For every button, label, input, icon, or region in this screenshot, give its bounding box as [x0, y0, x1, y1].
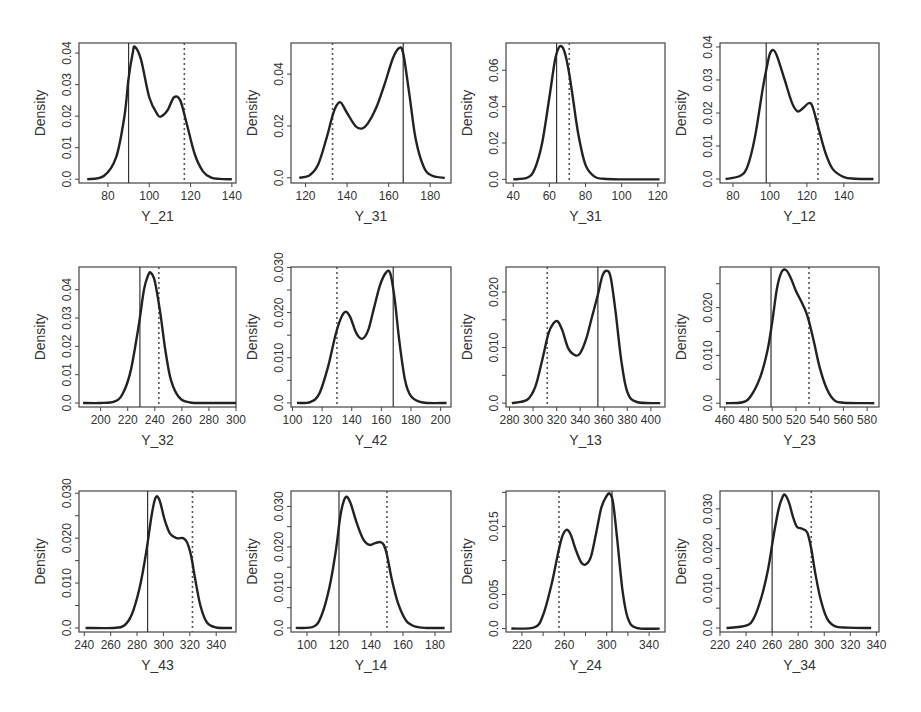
x-tick-label: 100: [297, 638, 317, 652]
x-tick-label: 300: [814, 638, 834, 652]
density-panel-y21-0: 801001201400.00.010.020.030.04Y_21Densit…: [32, 41, 242, 224]
x-tick-label: 260: [172, 413, 192, 427]
x-tick-label: 100: [282, 413, 302, 427]
density-panel-y24-10: 2202603003400.00.0050.015Y_24Density: [459, 491, 665, 673]
y-tick-label: 0.020: [701, 292, 715, 322]
x-tick-label: 120: [329, 638, 349, 652]
x-tick-label: 300: [153, 638, 173, 652]
x-tick-label: 280: [788, 638, 808, 652]
y-tick-label: 0.04: [60, 278, 74, 302]
y-axis-label: Density: [244, 538, 260, 585]
x-tick-label: 180: [425, 638, 445, 652]
y-tick-label: 0.020: [487, 277, 501, 307]
plot-frame: [506, 267, 665, 407]
y-tick-label: 0.010: [272, 572, 286, 602]
x-axis-label: Y_24: [569, 657, 602, 673]
y-tick-label: 0.0: [487, 620, 501, 637]
y-tick-label: 0.02: [60, 334, 74, 358]
y-tick-label: 0.0: [272, 394, 286, 411]
x-tick-label: 220: [512, 638, 532, 652]
x-tick-label: 100: [760, 189, 780, 203]
density-curve: [86, 496, 232, 628]
y-tick-label: 0.04: [701, 35, 715, 59]
x-axis-label: Y_21: [141, 208, 174, 224]
density-panel-y42-5: 1001201401601802000.00.0100.0200.030Y_42…: [244, 252, 451, 448]
x-axis-label: Y_31: [569, 208, 602, 224]
y-tick-label: 0.030: [60, 478, 74, 508]
x-tick-label: 320: [547, 413, 567, 427]
y-tick-label: 0.04: [487, 95, 501, 119]
plot-frame: [720, 43, 879, 183]
y-tick-label: 0.005: [487, 579, 501, 609]
x-tick-label: 160: [393, 638, 413, 652]
density-curve: [512, 271, 660, 403]
density-panel-y43-8: 2402602803003203400.00.0100.0200.030Y_43…: [32, 478, 236, 673]
plot-frame: [79, 267, 236, 407]
y-tick-label: 0.01: [60, 363, 74, 387]
y-tick-label: 0.0: [60, 394, 74, 411]
density-panel-y32-4: 2002202402602803000.00.010.020.030.04Y_3…: [32, 267, 246, 448]
x-tick-label: 560: [833, 413, 853, 427]
y-axis-label: Density: [32, 90, 48, 137]
x-axis-label: Y_13: [569, 432, 602, 448]
x-axis-label: Y_42: [355, 432, 388, 448]
y-tick-label: 0.0: [60, 619, 74, 636]
x-tick-label: 280: [500, 413, 520, 427]
x-tick-label: 280: [199, 413, 219, 427]
y-axis-label: Density: [673, 90, 689, 137]
x-tick-label: 80: [579, 189, 593, 203]
x-tick-label: 140: [337, 189, 357, 203]
x-axis-label: Y_12: [783, 208, 816, 224]
y-tick-label: 0.0: [272, 619, 286, 636]
x-axis-label: Y_31: [355, 208, 388, 224]
x-tick-label: 180: [401, 413, 421, 427]
y-tick-label: 0.0: [701, 170, 715, 187]
y-tick-label: 0.030: [272, 491, 286, 521]
plot-frame: [720, 267, 879, 407]
y-axis-label: Density: [673, 538, 689, 585]
x-tick-label: 160: [371, 413, 391, 427]
y-tick-label: 0.02: [272, 114, 286, 138]
density-curve: [297, 271, 447, 403]
density-panel-y13-6: 2803003203403603804000.00.0100.020Y_13De…: [459, 267, 665, 448]
x-tick-label: 240: [736, 638, 756, 652]
density-panel-y12-3: 801001201400.00.010.020.030.04Y_12Densit…: [673, 35, 879, 224]
density-panel-y14-9: 1001201401601800.00.0100.0200.030Y_14Den…: [244, 491, 451, 673]
y-tick-label: 0.030: [272, 252, 286, 282]
y-axis-label: Density: [244, 314, 260, 361]
x-tick-label: 260: [762, 638, 782, 652]
x-tick-label: 40: [507, 189, 521, 203]
x-tick-label: 120: [181, 189, 201, 203]
density-curve: [513, 46, 659, 179]
y-tick-label: 0.03: [60, 306, 74, 330]
x-tick-label: 260: [101, 638, 121, 652]
y-axis-label: Density: [32, 538, 48, 585]
y-axis-label: Density: [459, 314, 475, 361]
x-tick-label: 320: [180, 638, 200, 652]
y-tick-label: 0.0: [701, 395, 715, 412]
y-tick-label: 0.0: [487, 394, 501, 411]
plot-frame: [291, 267, 451, 407]
x-axis-label: Y_32: [141, 432, 174, 448]
y-tick-label: 0.04: [272, 62, 286, 86]
y-tick-label: 0.02: [60, 104, 74, 128]
x-tick-label: 140: [222, 189, 242, 203]
y-tick-label: 0.02: [701, 101, 715, 125]
y-tick-label: 0.02: [487, 131, 501, 155]
x-tick-label: 240: [145, 413, 165, 427]
x-tick-label: 520: [786, 413, 806, 427]
x-tick-label: 300: [597, 638, 617, 652]
density-curve: [87, 47, 232, 180]
x-tick-label: 340: [570, 413, 590, 427]
y-axis-label: Density: [459, 90, 475, 137]
y-axis-label: Density: [244, 90, 260, 137]
y-tick-label: 0.020: [272, 297, 286, 327]
x-tick-label: 80: [101, 189, 115, 203]
y-tick-label: 0.01: [701, 134, 715, 158]
y-tick-label: 0.0: [701, 619, 715, 636]
y-tick-label: 0.010: [60, 568, 74, 598]
y-axis-label: Density: [459, 538, 475, 585]
x-tick-label: 300: [523, 413, 543, 427]
x-tick-label: 480: [738, 413, 758, 427]
x-tick-label: 280: [127, 638, 147, 652]
